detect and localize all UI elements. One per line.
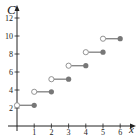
x-tick-label: 3 [67,128,71,136]
closed-endpoint [32,103,37,108]
closed-endpoint [100,50,105,55]
axis-ticks: 12345624681012 [5,14,122,136]
y-tick-label: 2 [9,104,13,113]
closed-endpoint [118,36,123,41]
y-tick-label: 6 [9,68,13,77]
x-tick-label: 5 [101,128,105,136]
x-axis-label: x [128,123,134,135]
open-endpoint [49,77,54,82]
open-endpoint [100,36,105,41]
y-tick-label: 10 [5,32,13,41]
step-segments [14,36,122,108]
x-tick-label: 4 [84,128,88,136]
step-function-chart: 12345624681012 C x [0,0,139,136]
open-endpoint [14,103,19,108]
closed-endpoint [66,77,71,82]
x-tick-label: 1 [32,128,36,136]
closed-endpoint [83,63,88,68]
x-tick-label: 6 [118,128,122,136]
y-axis-label: C [7,2,16,17]
closed-endpoint [49,89,54,94]
open-endpoint [32,89,37,94]
open-endpoint [66,63,71,68]
axes [8,5,136,131]
open-endpoint [83,50,88,55]
x-tick-label: 2 [49,128,53,136]
y-tick-label: 4 [9,86,13,95]
y-tick-label: 8 [9,50,13,59]
